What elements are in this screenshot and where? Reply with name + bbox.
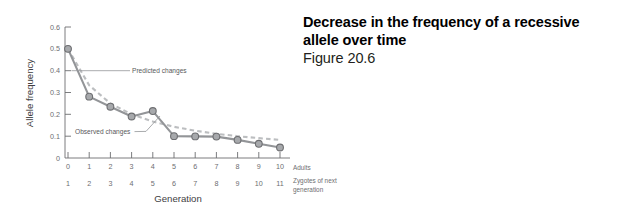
x-tick-label-zygote: 5 <box>151 179 155 188</box>
x-tick-label-adult: 6 <box>193 162 197 171</box>
row-label-zygotes-line2: generation <box>293 186 324 194</box>
data-point-marker <box>213 133 220 140</box>
predicted-changes-line <box>68 49 280 140</box>
data-point-marker <box>65 45 72 52</box>
x-tick-label-zygote: 3 <box>108 179 112 188</box>
annotation-leader-line <box>135 116 161 132</box>
x-tick-label-adult: 3 <box>130 162 134 171</box>
y-tick-label: 0.5 <box>50 44 60 53</box>
caption-title: Decrease in the frequency of a recessive… <box>303 14 603 49</box>
x-tick-label-zygote: 8 <box>214 179 218 188</box>
y-axis-title: Allele frequency <box>24 59 35 127</box>
x-tick-label-adult: 0 <box>66 162 70 171</box>
x-tick-label-adult: 4 <box>151 162 155 171</box>
x-tick-label-adult: 2 <box>108 162 112 171</box>
y-tick-label: 0.4 <box>50 66 60 75</box>
data-point-marker <box>255 140 262 147</box>
y-tick-label: 0.3 <box>50 88 60 97</box>
x-tick-label-adult: 5 <box>172 162 176 171</box>
data-point-marker <box>149 108 156 115</box>
x-tick-label-zygote: 1 <box>66 179 70 188</box>
data-point-marker <box>107 103 114 110</box>
x-tick-label-adult: 8 <box>236 162 240 171</box>
caption-figure-number: Figure 20.6 <box>303 50 603 68</box>
x-axis-title: Generation <box>154 193 201 204</box>
data-point-marker <box>192 133 199 140</box>
x-tick-label-zygote: 4 <box>130 179 134 188</box>
x-tick-label-adult: 9 <box>257 162 261 171</box>
data-point-marker <box>277 144 284 151</box>
x-axis-labels-adults: 012345678910 <box>66 162 284 171</box>
y-tick-label: 0.1 <box>50 132 60 141</box>
x-axis-ticks <box>68 152 280 158</box>
y-tick-label: 0 <box>56 154 60 163</box>
y-tick-label: 0.2 <box>50 110 60 119</box>
x-tick-label-zygote: 2 <box>87 179 91 188</box>
annotation-predicted-changes: Predicted changes <box>72 67 188 75</box>
x-tick-label-adult: 10 <box>276 162 284 171</box>
annotation-label: Observed changes <box>75 128 131 136</box>
x-tick-label-zygote: 11 <box>276 179 283 188</box>
x-tick-label-adult: 1 <box>87 162 91 171</box>
x-tick-label-zygote: 7 <box>193 179 197 188</box>
x-tick-label-zygote: 9 <box>236 179 240 188</box>
data-point-marker <box>86 93 93 100</box>
y-tick-label: 0.6 <box>50 23 60 32</box>
annotation-label: Predicted changes <box>132 67 187 75</box>
figure-container: Allele frequency 0.6 0.5 0.4 0.3 0.2 0.1… <box>0 0 618 210</box>
x-tick-label-adult: 7 <box>214 162 218 171</box>
data-point-marker <box>128 113 135 120</box>
data-point-marker <box>234 136 241 143</box>
x-tick-label-zygote: 10 <box>255 179 263 188</box>
data-point-marker <box>171 133 178 140</box>
x-axis-labels-zygotes: 1234567891011 <box>66 179 284 188</box>
row-label-adults: Adults <box>293 164 311 171</box>
row-label-zygotes-line1: Zygotes of next <box>293 177 337 185</box>
observed-changes-markers <box>65 45 284 150</box>
x-tick-label-zygote: 6 <box>172 179 176 188</box>
y-axis-ticks: 0.6 0.5 0.4 0.3 0.2 0.1 0 <box>50 23 71 163</box>
figure-caption: Decrease in the frequency of a recessive… <box>303 14 603 68</box>
